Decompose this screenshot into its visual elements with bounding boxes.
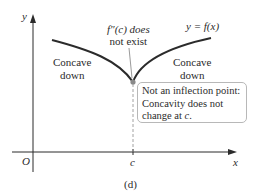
c-tick-label: c: [130, 156, 135, 168]
right-region-label: Concave down: [173, 56, 211, 82]
x-axis-label: x: [233, 156, 238, 168]
y-axis-arrow-icon: [30, 14, 36, 23]
concavity-diagram: y x O c y = f(x) Concave down Concave do…: [0, 0, 260, 196]
cusp-annotation: f″(c) does not exist: [107, 23, 150, 47]
curve-label-text: y = f(x): [186, 20, 219, 32]
x-axis-arrow-icon: [228, 149, 237, 155]
callout-line3-suffix: .: [189, 110, 192, 121]
callout-line1: Not an inflection point:: [142, 85, 242, 98]
curve-label: y = f(x): [186, 20, 219, 32]
left-region-line2: down: [53, 69, 91, 82]
right-region-line1: Concave: [173, 56, 211, 69]
annotation-pointer: [129, 48, 132, 78]
y-axis-label: y: [22, 10, 27, 22]
callout-line3-prefix: change at: [142, 110, 185, 121]
cusp-point: [130, 79, 135, 84]
left-region-label: Concave down: [53, 56, 91, 82]
cusp-annotation-line1: f″(c) does: [107, 23, 150, 35]
callout-line2: Concavity does not: [142, 98, 242, 111]
inflection-callout-box: Not an inflection point: Concavity does …: [137, 82, 247, 123]
callout-line3: change at c.: [142, 110, 242, 123]
origin-label: O: [22, 155, 30, 167]
left-region-line1: Concave: [53, 56, 91, 69]
panel-label: (d): [124, 178, 137, 190]
cusp-annotation-line2: not exist: [107, 35, 150, 47]
right-region-line2: down: [173, 69, 211, 82]
